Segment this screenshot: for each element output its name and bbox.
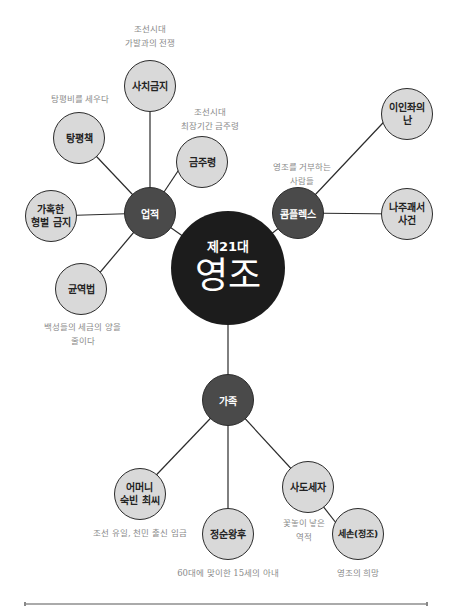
leaf-prohibition: 금주령: [176, 136, 228, 188]
leaf-queen-jeongsun: 정순왕후: [202, 508, 254, 560]
leaf-grandson-jeongjo: 세손(정조): [332, 508, 384, 560]
note-tangpyeong: 탕평비를 세우다: [30, 92, 130, 106]
leaf-tangpyeong: 탕평책: [53, 112, 105, 164]
note-luxury-ban: 조선시대 가발과의 전쟁: [110, 22, 190, 50]
leaf-cruel-punishment-ban: 가혹한 형벌 금지: [25, 190, 77, 242]
leaf-mother-choe: 어머니 숙빈 최씨: [114, 468, 166, 520]
leaf-gyunyeokbeop: 균역법: [55, 263, 107, 315]
center-subtitle: 제21대: [207, 239, 249, 255]
leaf-crown-prince-sado: 사도세자: [282, 461, 334, 513]
leaf-naju-incident: 나주괘서 사건: [381, 188, 433, 240]
note-gyunyeokbeop: 백성들의 세금의 양을 줄이다: [30, 320, 135, 348]
hub-complex: 콤플렉스: [272, 187, 324, 239]
note-prohibition: 조선시대 최장기간 금주령: [165, 105, 255, 133]
note-grandson-jeongjo: 영조의 희망: [318, 566, 398, 580]
center-node-yeongjo: 제21대 영조: [171, 211, 285, 325]
note-crown-prince-sado: 꽃놓이 낳은 역적: [274, 516, 334, 544]
center-title: 영조: [195, 255, 261, 297]
note-complex: 영조를 거부하는 사람들: [262, 160, 342, 188]
leaf-yi-injwa-rebellion: 이인좌의 난: [381, 88, 433, 140]
bottom-divider: [24, 603, 428, 605]
note-queen-jeongsun: 60대에 맞이한 15세의 아내: [170, 566, 286, 580]
hub-family: 가족: [202, 374, 254, 426]
note-mother-choe: 조선 유일, 천민 출신 임금: [85, 526, 195, 540]
hub-achievements: 업적: [124, 187, 176, 239]
